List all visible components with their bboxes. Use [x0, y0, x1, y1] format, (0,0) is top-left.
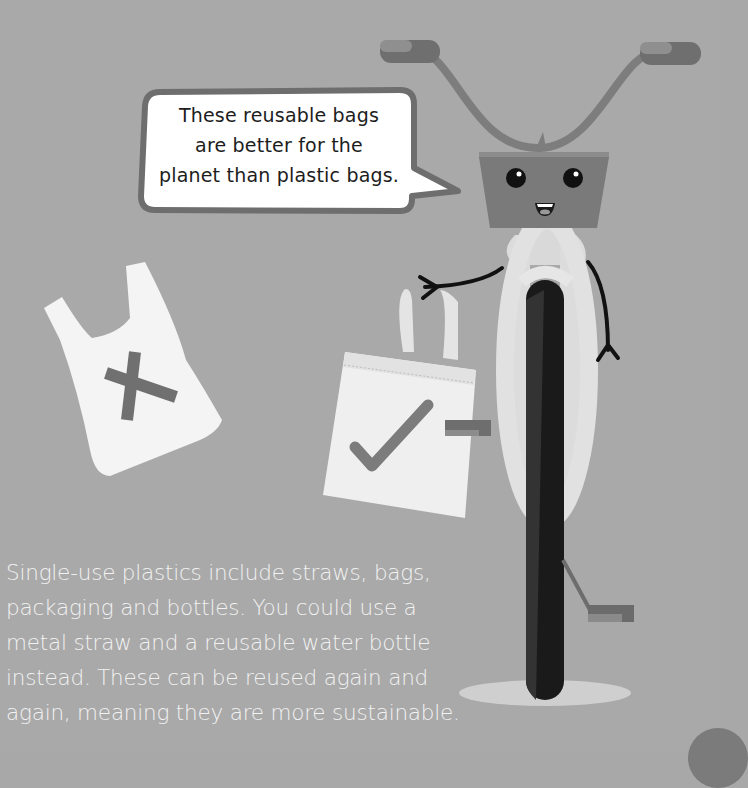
bubble-line: are better for the [148, 130, 410, 160]
speech-bubble-text: These reusable bags are better for the p… [148, 100, 410, 190]
body-line: again, meaning they are more sustainable… [6, 695, 466, 730]
bubble-line: These reusable bags [148, 100, 410, 130]
bubble-line: planet than plastic bags. [148, 160, 410, 190]
body-line: instead. These can be reused again and [6, 660, 466, 695]
reusable-bag [323, 289, 491, 518]
handlebars [380, 40, 701, 148]
basket-face [479, 152, 609, 228]
body-line: metal straw and a reusable water bottle [6, 625, 466, 660]
bike-tire [459, 280, 631, 706]
body-paragraph: Single-use plastics include straws, bags… [6, 555, 466, 730]
plastic-bag [44, 262, 222, 476]
page-number-badge [688, 728, 748, 788]
body-line: packaging and bottles. You could use a [6, 590, 466, 625]
pedal [563, 560, 634, 622]
body-line: Single-use plastics include straws, bags… [6, 555, 466, 590]
